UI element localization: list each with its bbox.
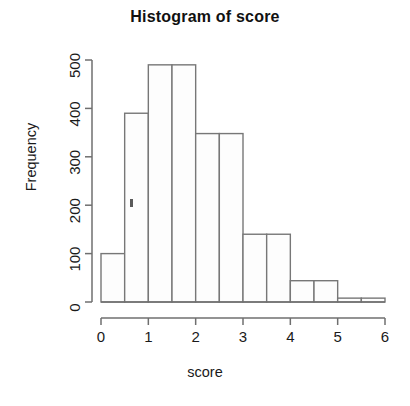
histogram-bar	[172, 65, 196, 302]
plot-canvas: 01002003004005000123456	[0, 0, 410, 406]
x-tick-label: 5	[333, 328, 341, 345]
histogram-bar	[314, 281, 338, 302]
scan-artifact-speck	[130, 199, 133, 207]
y-tick-label: 400	[66, 101, 83, 126]
y-axis-label: Frequency	[23, 97, 39, 217]
x-tick-label: 1	[144, 328, 152, 345]
histogram-bar	[219, 134, 243, 302]
histogram-bar	[196, 134, 220, 302]
histogram-bar	[125, 113, 149, 302]
histogram-bar	[101, 254, 125, 302]
y-tick-label: 200	[66, 198, 83, 223]
x-tick-label: 3	[239, 328, 247, 345]
histogram-plot: Histogram of score 010020030040050001234…	[0, 0, 410, 406]
y-tick-label: 500	[66, 53, 83, 78]
histogram-bar	[243, 234, 267, 302]
bars-group	[101, 65, 385, 302]
histogram-bar	[267, 234, 291, 302]
x-tick-label: 6	[381, 328, 389, 345]
histogram-bar	[290, 281, 314, 302]
y-tick-label: 0	[66, 303, 83, 311]
x-tick-label: 4	[286, 328, 294, 345]
x-tick-label: 0	[97, 328, 105, 345]
x-axis-label: score	[0, 364, 410, 380]
y-tick-label: 300	[66, 150, 83, 175]
histogram-bar	[148, 65, 172, 302]
y-tick-label: 100	[66, 247, 83, 272]
x-tick-label: 2	[191, 328, 199, 345]
